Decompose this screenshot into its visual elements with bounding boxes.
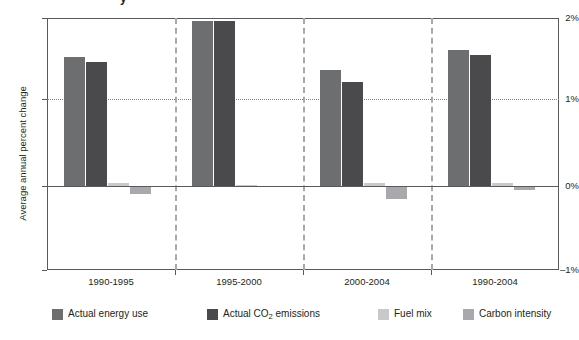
- y-tick-mark-2pct: [42, 18, 47, 19]
- bar-1990-2004-series-1: [470, 55, 491, 186]
- legend-label-fuel-mix: Fuel mix: [394, 308, 432, 320]
- bar-2000-2004-series-0: [320, 70, 341, 186]
- bar-1995-2000-series-1: [214, 21, 235, 186]
- bar-2000-2004-series-3: [386, 186, 407, 199]
- bar-1990-2004-series-0: [448, 50, 469, 186]
- x-axis-label-3: 1990-2004: [431, 276, 559, 287]
- x-axis-label-1: 1995-2000: [175, 276, 303, 287]
- legend-label-co2-subscript: 2: [269, 312, 273, 321]
- y-axis-title: Average annual percent change: [17, 44, 28, 264]
- legend-item-actual-co2-emissions: Actual CO2 emissions: [207, 306, 320, 322]
- x-tick-mark-3: [431, 270, 432, 275]
- group-separator-3: [431, 18, 433, 270]
- chart-page: y Average annual percent change 2% 1% 0%…: [0, 0, 579, 340]
- chart-legend: Actual energy use Actual CO2 emissions F…: [0, 306, 579, 326]
- legend-label-carbon-intensity: Carbon intensity: [479, 308, 551, 320]
- bar-2000-2004-series-1: [342, 82, 363, 186]
- y-tick-label-2pct: 2%: [537, 13, 579, 23]
- bar-1995-2000-series-0: [192, 21, 213, 186]
- legend-swatch-carbon-intensity: [463, 309, 474, 320]
- x-tick-mark-2: [303, 270, 304, 275]
- legend-item-carbon-intensity: Carbon intensity: [463, 306, 551, 322]
- x-axis-label-0: 1990-1995: [47, 276, 175, 287]
- bar-1990-1995-series-0: [64, 57, 85, 186]
- bar-1990-1995-series-3: [130, 186, 151, 194]
- chart-title-text: y: [120, 0, 500, 5]
- legend-swatch-actual-energy-use: [52, 309, 63, 320]
- legend-swatch-actual-co2-emissions: [207, 309, 218, 320]
- y-tick-label-neg1pct: –1%: [537, 265, 579, 275]
- legend-item-actual-energy-use: Actual energy use: [52, 306, 148, 322]
- y-tick-mark-neg1pct: [42, 270, 47, 271]
- group-separator-1: [175, 18, 177, 270]
- legend-label-actual-co2-emissions: Actual CO2 emissions: [223, 308, 320, 321]
- zero-baseline: [47, 186, 559, 187]
- bar-1990-1995-series-1: [86, 62, 107, 186]
- legend-item-fuel-mix: Fuel mix: [378, 306, 432, 322]
- legend-label-co2-before: Actual CO: [223, 308, 269, 319]
- chart-title-clipped: y: [120, 0, 500, 5]
- x-tick-mark-1: [175, 270, 176, 275]
- legend-swatch-fuel-mix: [378, 309, 389, 320]
- legend-label-actual-energy-use: Actual energy use: [68, 308, 148, 320]
- group-separator-2: [303, 18, 305, 270]
- legend-label-co2-after: emissions: [273, 308, 320, 319]
- x-axis-label-2: 2000-2004: [303, 276, 431, 287]
